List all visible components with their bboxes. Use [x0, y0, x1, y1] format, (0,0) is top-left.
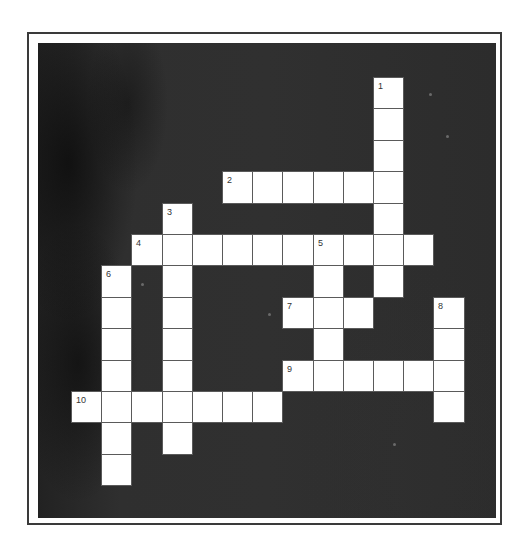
clue-number: 4 [136, 238, 141, 248]
crossword-cell[interactable] [192, 234, 223, 266]
crossword-cell[interactable] [373, 234, 404, 266]
clue-number: 9 [287, 364, 292, 374]
crossword-cell[interactable]: 4 [131, 234, 163, 266]
crossword-cell[interactable] [343, 297, 374, 329]
crossword-cell[interactable] [131, 391, 163, 423]
crossword-cell[interactable] [343, 234, 374, 266]
crossword-cell[interactable] [373, 140, 404, 172]
clue-number: 2 [227, 175, 232, 185]
board-speck [446, 135, 449, 138]
crossword-board: 12345678910 [38, 43, 496, 518]
crossword-cell[interactable] [192, 391, 223, 423]
crossword-cell[interactable] [101, 328, 132, 361]
clue-number: 10 [76, 395, 86, 405]
crossword-cell[interactable] [101, 454, 132, 486]
crossword-cell[interactable]: 6 [101, 265, 132, 298]
crossword-cell[interactable] [373, 203, 404, 235]
crossword-cell[interactable]: 1 [373, 77, 404, 109]
clue-number: 1 [378, 81, 383, 91]
crossword-cell[interactable] [403, 360, 434, 392]
crossword-cell[interactable] [313, 360, 344, 392]
crossword-cell[interactable] [433, 391, 465, 423]
crossword-cell[interactable] [162, 391, 193, 423]
crossword-cell[interactable] [403, 234, 434, 266]
crossword-cell[interactable] [162, 360, 193, 392]
crossword-cell[interactable] [433, 328, 465, 361]
crossword-cell[interactable] [101, 422, 132, 455]
crossword-cell[interactable] [222, 234, 253, 266]
crossword-cell[interactable] [433, 360, 465, 392]
board-speck [268, 313, 271, 316]
crossword-cell[interactable] [162, 234, 193, 266]
crossword-cell[interactable] [282, 234, 314, 266]
crossword-cell[interactable] [313, 297, 344, 329]
crossword-cell[interactable] [252, 234, 283, 266]
crossword-cell[interactable]: 10 [71, 391, 102, 423]
crossword-cell[interactable] [373, 108, 404, 141]
clue-number: 3 [167, 207, 172, 217]
clue-number: 8 [438, 301, 443, 311]
board-speck [141, 283, 144, 286]
crossword-cell[interactable]: 8 [433, 297, 465, 329]
crossword-cell[interactable] [162, 422, 193, 455]
crossword-cell[interactable] [222, 391, 253, 423]
crossword-cell[interactable] [343, 171, 374, 204]
crossword-cell[interactable]: 9 [282, 360, 314, 392]
crossword-cell[interactable] [162, 265, 193, 298]
crossword-frame: 12345678910 [27, 32, 502, 525]
crossword-page: 12345678910 [0, 0, 527, 551]
crossword-cell[interactable]: 3 [162, 203, 193, 235]
crossword-cell[interactable] [343, 360, 374, 392]
clue-number: 6 [106, 269, 111, 279]
clue-number: 7 [287, 301, 292, 311]
crossword-cell[interactable]: 7 [282, 297, 314, 329]
crossword-cell[interactable]: 2 [222, 171, 253, 204]
board-speck [393, 443, 396, 446]
crossword-cell[interactable] [313, 171, 344, 204]
crossword-cell[interactable] [282, 171, 314, 204]
crossword-cell[interactable] [373, 171, 404, 204]
crossword-cell[interactable] [101, 360, 132, 392]
crossword-cell[interactable] [162, 328, 193, 361]
crossword-cell[interactable]: 5 [313, 234, 344, 266]
crossword-cell[interactable] [373, 265, 404, 298]
crossword-cell[interactable] [313, 328, 344, 361]
crossword-cell[interactable] [252, 391, 283, 423]
crossword-cell[interactable] [101, 297, 132, 329]
crossword-cell[interactable] [162, 297, 193, 329]
crossword-cell[interactable] [313, 265, 344, 298]
clue-number: 5 [318, 238, 323, 248]
crossword-cell[interactable] [373, 360, 404, 392]
crossword-cell[interactable] [101, 391, 132, 423]
crossword-cell[interactable] [252, 171, 283, 204]
board-speck [429, 93, 432, 96]
